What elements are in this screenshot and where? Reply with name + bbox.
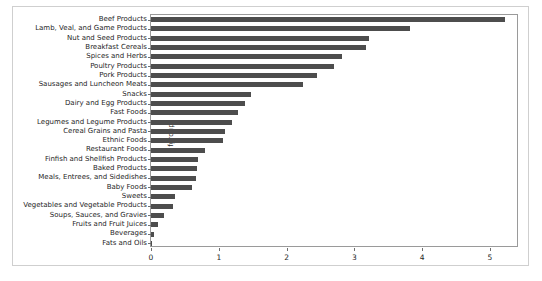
figure: fgroup Beef ProductsLamb, Veal, and Game…: [0, 0, 542, 281]
bar: [151, 26, 410, 31]
bar: [151, 101, 245, 106]
category-label: Nut and Seed Products: [9, 34, 147, 44]
category-label: Spices and Herbs: [9, 52, 147, 62]
category-label: Soups, Sauces, and Gravies: [9, 211, 147, 221]
x-axis-tick: [287, 248, 288, 251]
category-label: Meals, Entrees, and Sidedishes: [9, 173, 147, 183]
bar: [151, 213, 164, 218]
x-axis-tick: [219, 248, 220, 251]
category-label: Breakfast Cereals: [9, 43, 147, 53]
bar: [151, 54, 342, 59]
x-axis-tick: [151, 248, 152, 251]
x-axis-tick-label: 5: [480, 253, 500, 262]
category-label: Vegetables and Vegetable Products: [9, 201, 147, 211]
bar: [151, 138, 223, 143]
category-label: Beef Products: [9, 15, 147, 25]
category-label: Lamb, Veal, and Game Products: [9, 24, 147, 34]
category-label: Beverages: [9, 229, 147, 239]
category-label: Legumes and Legume Products: [9, 118, 147, 128]
bar: [151, 232, 154, 237]
x-axis-tick-label: 4: [412, 253, 432, 262]
x-axis-tick-label: 2: [277, 253, 297, 262]
x-axis-tick: [490, 248, 491, 251]
category-label: Baby Foods: [9, 183, 147, 193]
category-label: Finfish and Shellfish Products: [9, 155, 147, 165]
category-label: Snacks: [9, 90, 147, 100]
bar: [151, 82, 303, 87]
category-label: Dairy and Egg Products: [9, 99, 147, 109]
x-axis-tick-label: 0: [141, 253, 161, 262]
x-axis-tick-label: 3: [344, 253, 364, 262]
bar: [151, 92, 251, 97]
bar: [151, 222, 158, 227]
bar: [151, 185, 192, 190]
category-label: Poultry Products: [9, 62, 147, 72]
x-axis-tick: [354, 248, 355, 251]
category-label: Cereal Grains and Pasta: [9, 127, 147, 137]
category-label: Fruits and Fruit Juices: [9, 220, 147, 230]
bar: [151, 157, 198, 162]
bar: [151, 194, 175, 199]
bar: [151, 204, 173, 209]
bar: [151, 148, 205, 153]
category-label: Sausages and Luncheon Meats: [9, 80, 147, 90]
bar: [151, 120, 232, 125]
plot-area: fgroup Beef ProductsLamb, Veal, and Game…: [150, 14, 518, 247]
bar: [151, 17, 505, 22]
category-label: Fats and Oils: [9, 239, 147, 249]
bar: [151, 110, 238, 115]
category-label: Pork Products: [9, 71, 147, 81]
x-axis-tick: [422, 248, 423, 251]
bar: [151, 36, 369, 41]
bar: [151, 166, 197, 171]
category-label: Fast Foods: [9, 108, 147, 118]
bar: [151, 241, 152, 246]
category-label: Sweets: [9, 192, 147, 202]
x-axis-tick-label: 1: [209, 253, 229, 262]
category-label: Ethnic Foods: [9, 136, 147, 146]
bar: [151, 129, 225, 134]
bar: [151, 73, 317, 78]
bar: [151, 45, 366, 50]
category-label: Baked Products: [9, 164, 147, 174]
bar: [151, 176, 196, 181]
category-label: Restaurant Foods: [9, 145, 147, 155]
bar: [151, 64, 334, 69]
